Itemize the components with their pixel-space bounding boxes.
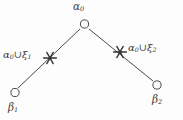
label-beta1: β1 [8, 102, 18, 114]
label-right-xi-subscript: 2 [153, 46, 157, 53]
label-left-xi-subscript: 1 [28, 53, 32, 60]
left-star-center [49, 57, 52, 60]
label-beta2-subscript: 2 [158, 98, 162, 106]
label-apex-subscript: 0 [80, 5, 84, 13]
node-beta2-circle [153, 81, 161, 89]
label-left-alpha: α [3, 49, 10, 60]
node-beta1-circle [11, 88, 19, 96]
label-left-star: α0∪ξ1 [3, 50, 32, 61]
label-apex: α0 [73, 1, 84, 13]
union-icon: ∪ [14, 49, 22, 60]
wedge-tree-diagram: α0 α0∪ξ1 α0∪ξ2 β1 β2 [0, 0, 183, 120]
label-beta2: β2 [152, 94, 162, 106]
label-beta1-subscript: 1 [14, 106, 18, 114]
label-right-alpha: α [128, 42, 135, 53]
label-right-star: α0∪ξ2 [128, 43, 157, 54]
union-icon-right: ∪ [139, 42, 147, 53]
right-star-center [119, 51, 122, 54]
node-apex-circle [80, 20, 88, 28]
